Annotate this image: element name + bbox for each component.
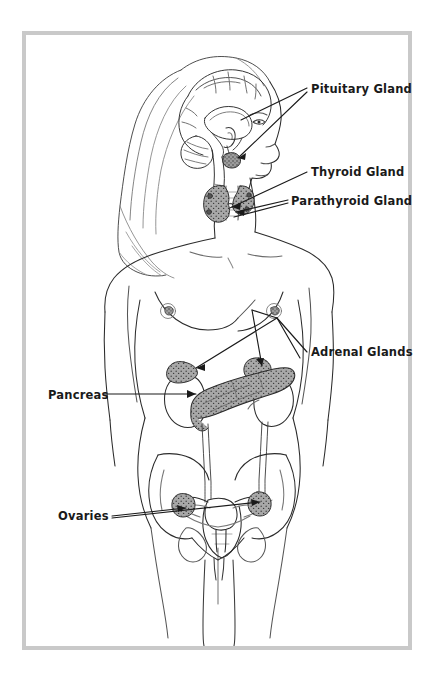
label-adrenal-glands: Adrenal Glands — [311, 345, 413, 359]
leader-pituitary-arrow — [238, 92, 307, 158]
label-pituitary-gland: Pituitary Gland — [311, 82, 412, 96]
thyroid-gland-organ — [204, 185, 255, 222]
endocrine-system-illustration — [0, 0, 434, 680]
nipple-left — [161, 304, 176, 319]
label-thyroid-gland: Thyroid Gland — [311, 165, 404, 179]
ureters — [202, 422, 268, 502]
label-pancreas: Pancreas — [48, 388, 109, 402]
diagram-page: Pituitary Gland Thyroid Gland Parathyroi… — [0, 0, 434, 680]
leader-pituitary-upper — [241, 88, 307, 120]
label-ovaries: Ovaries — [58, 509, 109, 523]
label-parathyroid-gland: Parathyroid Gland — [291, 194, 412, 208]
leader-adrenal-right-seg — [277, 318, 300, 358]
nipple-right — [267, 304, 282, 319]
breasts — [155, 292, 283, 331]
torso-outline — [104, 232, 334, 646]
pituitary-gland-organ — [223, 153, 241, 168]
hair — [118, 57, 270, 279]
